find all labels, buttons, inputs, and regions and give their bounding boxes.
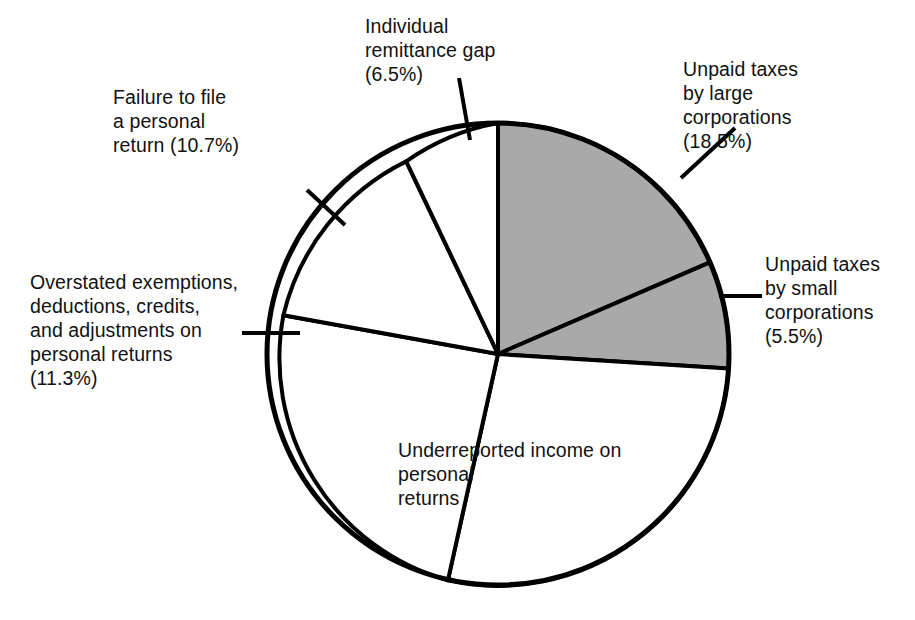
- pie-chart-figure: Individual remittance gap (6.5%) Failure…: [0, 0, 915, 620]
- label-overstated-exemptions: Overstated exemptions, deductions, credi…: [30, 270, 238, 390]
- label-failure-to-file: Failure to file a personal return (10.7%…: [113, 85, 239, 157]
- label-underreported-income: Underreported income on personal returns: [398, 438, 621, 510]
- label-individual-remittance-gap: Individual remittance gap (6.5%): [365, 14, 495, 86]
- label-unpaid-taxes-large-corporations: Unpaid taxes by large corporations (18.5…: [683, 57, 798, 153]
- label-unpaid-taxes-small-corporations: Unpaid taxes by small corporations (5.5%…: [765, 252, 880, 348]
